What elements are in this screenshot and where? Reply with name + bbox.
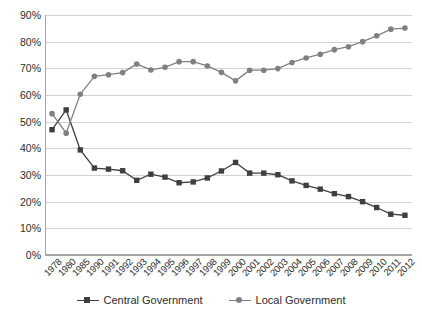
y-axis-tick-label: 30% — [1, 170, 41, 180]
y-axis-labels: 0%10%20%30%40%50%60%70%80%90% — [0, 15, 41, 255]
y-axis-tick-label: 50% — [1, 117, 41, 127]
data-point[interactable] — [78, 147, 83, 152]
data-point[interactable] — [106, 72, 112, 78]
data-point[interactable] — [360, 199, 365, 204]
legend-item-central[interactable]: Central Government — [77, 294, 203, 306]
data-point[interactable] — [346, 44, 352, 50]
data-point[interactable] — [190, 59, 196, 65]
data-point[interactable] — [205, 175, 210, 180]
legend-label-local: Local Government — [256, 294, 346, 306]
data-point[interactable] — [388, 212, 393, 217]
data-point[interactable] — [134, 178, 139, 183]
legend-key-local-icon — [229, 295, 251, 305]
chart-container: 0%10%20%30%40%50%60%70%80%90% 1978198019… — [0, 0, 422, 310]
data-point[interactable] — [92, 165, 97, 170]
data-point[interactable] — [318, 186, 323, 191]
data-point[interactable] — [332, 47, 338, 53]
data-point[interactable] — [275, 172, 280, 177]
y-axis-tick-label: 0% — [1, 250, 41, 260]
y-axis-tick-label: 60% — [1, 90, 41, 100]
data-point[interactable] — [92, 74, 98, 80]
data-point[interactable] — [388, 26, 394, 32]
data-point[interactable] — [233, 160, 238, 165]
chart-legend: Central Government Local Government — [0, 294, 422, 306]
data-point[interactable] — [402, 213, 407, 218]
legend-marker-central-square-icon — [84, 297, 90, 303]
data-point[interactable] — [77, 91, 83, 97]
y-axis-tick-label: 20% — [1, 197, 41, 207]
data-point[interactable] — [106, 166, 111, 171]
data-point[interactable] — [63, 130, 69, 136]
data-point[interactable] — [176, 180, 181, 185]
data-point[interactable] — [317, 51, 323, 57]
data-point[interactable] — [233, 78, 239, 84]
legend-key-central-icon — [77, 295, 99, 305]
data-point[interactable] — [346, 194, 351, 199]
series-line-local-government — [52, 28, 405, 133]
data-point[interactable] — [120, 70, 126, 76]
data-point[interactable] — [219, 168, 224, 173]
y-axis-tick-label: 10% — [1, 223, 41, 233]
data-point[interactable] — [289, 178, 294, 183]
data-point[interactable] — [289, 60, 295, 66]
data-point[interactable] — [247, 170, 252, 175]
data-point[interactable] — [162, 174, 167, 179]
plot-area — [45, 15, 412, 255]
data-point[interactable] — [148, 67, 154, 73]
data-point[interactable] — [402, 25, 408, 31]
data-point[interactable] — [360, 39, 366, 45]
data-point[interactable] — [374, 33, 380, 39]
data-point[interactable] — [176, 59, 182, 65]
data-point[interactable] — [63, 107, 68, 112]
data-point[interactable] — [49, 111, 55, 117]
data-point[interactable] — [148, 172, 153, 177]
data-point[interactable] — [275, 66, 281, 72]
x-axis-labels: 1978198019851990199119921993199419951996… — [45, 256, 412, 296]
data-point[interactable] — [191, 179, 196, 184]
data-point[interactable] — [205, 63, 211, 69]
y-axis-tick-label: 70% — [1, 63, 41, 73]
data-point[interactable] — [261, 67, 267, 73]
y-axis-tick-label: 90% — [1, 10, 41, 20]
data-point[interactable] — [247, 67, 253, 73]
data-point[interactable] — [219, 70, 225, 76]
series-layer — [45, 15, 412, 255]
data-point[interactable] — [261, 170, 266, 175]
data-point[interactable] — [303, 55, 309, 61]
data-point[interactable] — [162, 64, 168, 70]
data-point[interactable] — [374, 205, 379, 210]
legend-label-central: Central Government — [104, 294, 203, 306]
y-axis-tick-label: 80% — [1, 37, 41, 47]
legend-item-local[interactable]: Local Government — [229, 294, 346, 306]
data-point[interactable] — [49, 127, 54, 132]
legend-marker-local-circle-icon — [236, 297, 242, 303]
data-point[interactable] — [134, 61, 140, 67]
series-line-central-government — [52, 110, 405, 215]
data-point[interactable] — [120, 168, 125, 173]
data-point[interactable] — [332, 191, 337, 196]
y-axis-tick-label: 40% — [1, 143, 41, 153]
data-point[interactable] — [303, 183, 308, 188]
